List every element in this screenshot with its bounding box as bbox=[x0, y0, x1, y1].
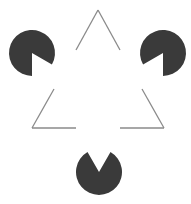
bottom-disc bbox=[76, 152, 122, 195]
apex-left-segment bbox=[76, 10, 98, 50]
apex-right-segment bbox=[98, 10, 120, 50]
kanizsa-figure bbox=[0, 0, 191, 204]
top-left-disc bbox=[9, 30, 55, 76]
pacman-discs bbox=[9, 30, 186, 195]
outline-triangle bbox=[32, 10, 164, 128]
lower-right-side-segment bbox=[142, 89, 164, 128]
top-right-disc bbox=[140, 30, 186, 76]
kanizsa-diagram bbox=[0, 0, 191, 204]
lower-left-side-segment bbox=[32, 89, 54, 128]
